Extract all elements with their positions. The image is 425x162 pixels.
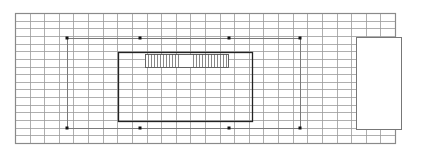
- corner-marker: [228, 127, 231, 130]
- corner-markers: [66, 37, 302, 130]
- hatched-strip-outline: [146, 55, 229, 68]
- grid-lines: [15, 13, 395, 143]
- corner-marker: [66, 127, 69, 130]
- corner-marker: [139, 37, 142, 40]
- corner-marker: [228, 37, 231, 40]
- white-block: [357, 38, 402, 130]
- corner-marker: [66, 37, 69, 40]
- corner-marker: [299, 127, 302, 130]
- hatched-strip: [146, 54, 229, 68]
- floor-plan-canvas: [0, 0, 425, 162]
- corner-marker: [139, 127, 142, 130]
- corner-marker: [299, 37, 302, 40]
